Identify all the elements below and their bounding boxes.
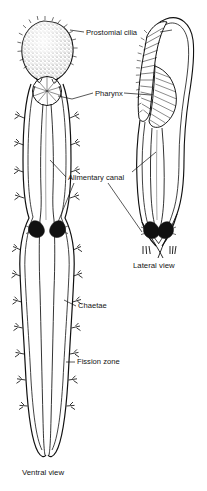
alimentary-canal-ventral	[39, 104, 55, 455]
leader-alimentary-lateral-upper	[132, 152, 156, 172]
pharynx-ventral	[33, 77, 62, 106]
ventral-body-wall	[20, 84, 74, 457]
leader-pharynx-ventral	[58, 93, 93, 99]
leader-chaetae	[64, 300, 76, 306]
label-alimentary-canal: Alimentary canal	[68, 174, 124, 182]
label-prostomial-cilia: Prostomial cilia	[86, 29, 137, 37]
worm-diagram-svg	[0, 0, 207, 491]
fission-zone-ventral	[26, 221, 68, 238]
prostomium-bulb	[17, 16, 77, 82]
label-fission-zone: Fission zone	[77, 358, 120, 366]
leader-alimentary-ventral-upper	[50, 160, 66, 177]
caption-lateral-view: Lateral view	[133, 262, 175, 270]
caption-ventral-view: Ventral view	[22, 469, 64, 477]
anatomy-figure: Prostomial cilia Pharynx Alimentary cana…	[0, 0, 207, 491]
leader-alimentary-lateral	[108, 183, 142, 232]
chaetae-ventral	[12, 112, 83, 410]
label-pharynx: Pharynx	[95, 90, 123, 98]
alimentary-canal-lateral	[150, 128, 164, 226]
ventral-view-drawing	[12, 16, 83, 457]
fission-zone-lateral	[141, 222, 176, 239]
lateral-view-drawing	[136, 18, 194, 258]
label-chaetae: Chaetae	[78, 302, 107, 310]
